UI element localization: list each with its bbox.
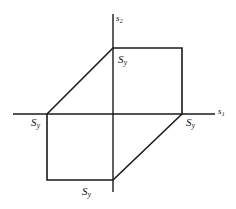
yield-stress-label-right: Sy	[186, 117, 195, 130]
yield-stress-label-left: Sy	[31, 117, 40, 130]
tresca-yield-surface-figure: s2 s1 Sy Sy Sy Sy	[0, 0, 236, 209]
axis-label-s1: s1	[218, 107, 225, 117]
yield-stress-label-bottom-symbol: S	[82, 185, 88, 197]
yield-stress-label-top: Sy	[118, 54, 127, 67]
axis-label-s2-symbol: s	[116, 13, 120, 23]
yield-stress-label-left-symbol: S	[31, 116, 37, 128]
yield-stress-label-top-symbol: S	[118, 53, 124, 65]
yield-stress-label-bottom: Sy	[82, 186, 91, 199]
axis-label-s2: s2	[116, 14, 123, 24]
yield-stress-label-right-symbol: S	[186, 116, 192, 128]
yield-stress-label-right-subscript: y	[192, 121, 195, 130]
yield-stress-label-top-subscript: y	[124, 58, 127, 67]
yield-stress-label-bottom-subscript: y	[88, 190, 91, 199]
axis-label-s1-subscript: 1	[222, 111, 225, 117]
axis-label-s1-symbol: s	[218, 106, 222, 116]
axis-label-s2-subscript: 2	[120, 18, 123, 24]
yield-stress-label-left-subscript: y	[37, 121, 40, 130]
diagram-canvas	[0, 0, 236, 209]
